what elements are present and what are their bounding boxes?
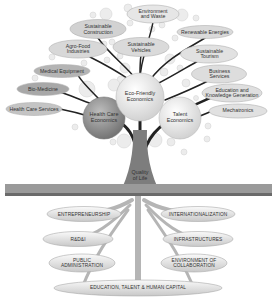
root-internationalization: INTERNATIONALIZATION bbox=[161, 207, 235, 222]
leaf-bio-medicine: Bio-Medicine bbox=[17, 83, 69, 96]
root-infrastructures: INFRASTRUCTURES bbox=[163, 232, 233, 247]
leaf-agro-food-industries: Agro-Food Industries bbox=[49, 40, 107, 58]
root-public-administration: PUBLIC ADMINISTRATION bbox=[49, 254, 115, 272]
leaf-mechatronics: Mechatronics bbox=[209, 104, 267, 118]
leaf-sustainable-vehicles: Sustainable Vehicles bbox=[113, 38, 169, 57]
leaf-education-knowledge-generation: Education and Knowledge Generation bbox=[202, 84, 262, 102]
root-education-talent-human-capital: EDUCATION, TALENT & HUMAN CAPITAL bbox=[54, 280, 222, 296]
root-rdi: R&D&I bbox=[43, 232, 113, 247]
root-entrepreneurship: ENTREPRENEURSHIP bbox=[47, 207, 121, 222]
leaf-sustainable-construction: Sustainable Construction bbox=[70, 20, 126, 39]
leaf-health-care-services: Health Care Services bbox=[6, 103, 62, 116]
main-talent-economics: Talent Economics bbox=[160, 108, 200, 128]
main-eco-friendly-economics: Eco-Friendly Economics bbox=[116, 87, 164, 107]
leaf-medical-equipment: Medical Equipment bbox=[34, 65, 90, 78]
leaf-business-services: Business Services bbox=[192, 65, 247, 83]
leaf-environment-and-waste: Environment and Waste bbox=[127, 5, 179, 23]
leaf-sustainable-tourism: Sustainable Tourism bbox=[181, 45, 238, 63]
leaf-renewable-energies: Renewable Energies bbox=[177, 26, 233, 39]
trunk-quality-of-life: Quality of Life bbox=[125, 168, 155, 184]
grass-band bbox=[5, 184, 272, 196]
main-health-care-economics: Health Care Economics bbox=[84, 108, 124, 128]
root-environment-of-collaboration: ENVIRONMENT OF COLLABORATION bbox=[161, 254, 227, 272]
